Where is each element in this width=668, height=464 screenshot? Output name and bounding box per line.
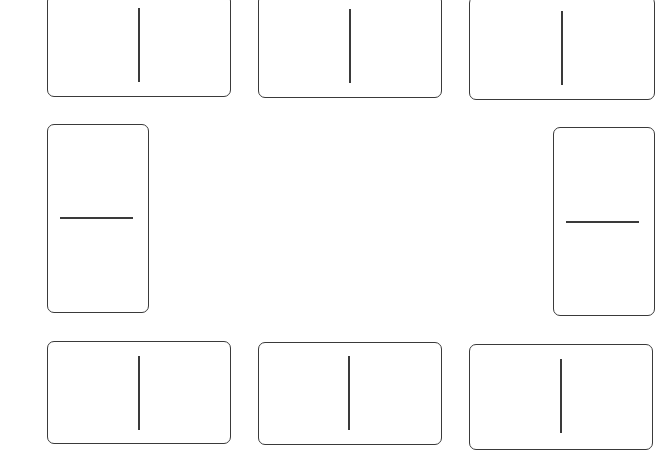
tile-divider: [138, 356, 140, 430]
domino-tile-middle-left: [47, 124, 149, 313]
tile-divider: [561, 11, 563, 85]
domino-tile-bottom-middle: [258, 342, 442, 445]
tile-divider: [60, 217, 133, 219]
tile-divider: [348, 356, 350, 430]
tile-divider: [566, 221, 639, 223]
tile-divider: [138, 8, 140, 82]
tile-divider: [560, 359, 562, 433]
tile-divider: [349, 9, 351, 83]
